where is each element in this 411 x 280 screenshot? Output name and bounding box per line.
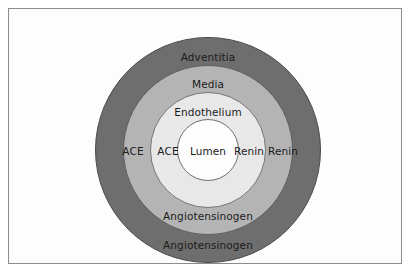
label-ace-endothelium: ACE (157, 146, 178, 157)
label-renin-endothelium: Renin (234, 146, 264, 157)
label-angiotensinogen-media: Angiotensinogen (163, 211, 253, 222)
label-endothelium: Endothelium (174, 107, 241, 118)
label-ace-media: ACE (122, 146, 143, 157)
label-lumen: Lumen (190, 146, 226, 157)
figure-frame: Adventitia Media Endothelium Lumen ACE A… (8, 8, 402, 264)
label-angiotensinogen-adventitia: Angiotensinogen (163, 240, 253, 251)
label-adventitia: Adventitia (181, 52, 236, 63)
label-media: Media (192, 79, 224, 90)
label-renin-media: Renin (268, 146, 298, 157)
figure-root: Adventitia Media Endothelium Lumen ACE A… (0, 0, 411, 280)
